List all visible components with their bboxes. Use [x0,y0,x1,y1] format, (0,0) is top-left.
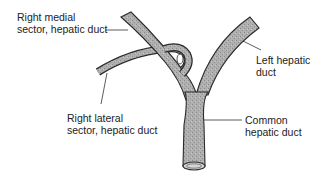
label-common-hepatic-duct: Common hepatic duct [245,115,302,138]
left-hepatic-duct [196,17,259,95]
leader-line-right-lateral [101,73,107,104]
label-right-medial-sector: Right medial sector, hepatic duct [17,12,107,35]
common-hepatic-duct [183,92,208,170]
label-right-lateral-sector: Right lateral sector, hepatic duct [67,113,157,136]
leader-line-left-hepatic [243,41,261,50]
label-left-hepatic-duct: Left hepatic duct [256,55,310,78]
